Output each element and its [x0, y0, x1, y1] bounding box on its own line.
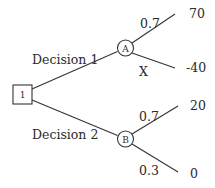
probability-a-2: X — [139, 64, 148, 79]
decision-2-label: Decision 2 — [32, 127, 98, 142]
decision-tree-diagram: 1 Decision 1 Decision 2 A B 0.7 X 0.7 0.… — [0, 0, 215, 188]
decision-1-label: Decision 1 — [32, 52, 98, 67]
probability-b-1: 0.7 — [139, 109, 159, 124]
chance-node-b-label: B — [122, 135, 129, 145]
payoff-a-1: 70 — [189, 6, 205, 21]
payoff-b-2: 0 — [190, 166, 198, 181]
decision-node-label: 1 — [20, 90, 26, 100]
probability-a-1: 0.7 — [140, 16, 160, 31]
payoff-b-1: 20 — [190, 98, 206, 113]
chance-node-a-label: A — [121, 44, 129, 54]
probability-b-2: 0.3 — [139, 163, 159, 178]
payoff-a-2: -40 — [186, 60, 206, 75]
